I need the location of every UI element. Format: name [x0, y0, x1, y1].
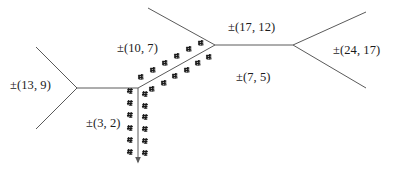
label-24-17: ±(24, 17) — [333, 43, 380, 58]
label-3-2: ±(3, 2) — [86, 116, 121, 131]
vertical-edge-arrow-tip — [135, 157, 141, 164]
edge-leaf-upper-right — [293, 12, 366, 45]
label-7-5: ±(7, 5) — [236, 70, 271, 85]
edge-leaf-lower-left — [36, 88, 77, 129]
diagram-edges-layer — [0, 0, 401, 176]
tree-diagram-figure: ±(13, 9)±(10, 7)±(3, 2)±(17, 12)±(7, 5)±… — [0, 0, 401, 176]
label-10-7: ±(10, 7) — [117, 41, 158, 56]
label-17-12: ±(17, 12) — [228, 20, 275, 35]
label-13-9: ±(13, 9) — [10, 78, 51, 93]
edge-leaf-upper-mid — [148, 8, 215, 45]
